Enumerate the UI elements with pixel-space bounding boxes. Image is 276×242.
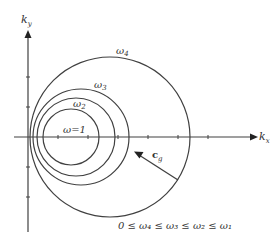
label-omega1: ω=1 (63, 124, 86, 135)
wavevector-diagram: ky kx ω4 ω3 ω2 ω=1 cg 0 ≤ ω₄ ≤ ω₃ ≤ ω₂ ≤… (0, 0, 276, 242)
label-omega4: ω4 (116, 45, 129, 58)
kx-label: kx (259, 130, 270, 145)
label-omega3: ω3 (94, 79, 107, 92)
inequality-caption: 0 ≤ ω₄ ≤ ω₃ ≤ ω₂ ≤ ω₁ (118, 220, 232, 231)
kx-arrowhead-icon (250, 134, 258, 141)
ky-label: ky (21, 13, 33, 28)
vector-label: cg (152, 149, 163, 163)
ky-arrowhead-icon (25, 30, 32, 38)
